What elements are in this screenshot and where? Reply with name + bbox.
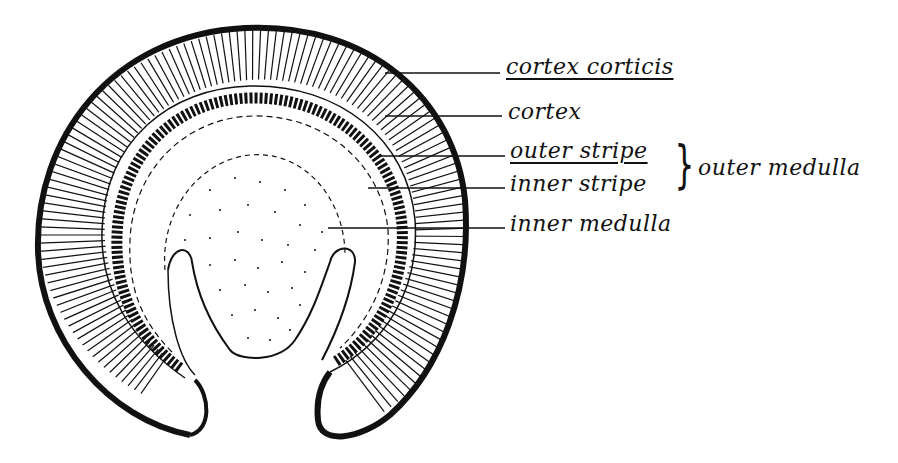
kidney-diagram: cortex corticis cortex outer stripe inne… <box>0 0 898 463</box>
label-inner-medulla: inner medulla <box>510 213 672 235</box>
kidney-drawing <box>0 0 898 463</box>
label-cortex: cortex <box>508 101 581 123</box>
inner-stripe-boundary <box>165 155 345 270</box>
label-outer-medulla: outer medulla <box>698 157 861 179</box>
inner-medulla-stipple <box>184 177 323 341</box>
label-cortex-corticis: cortex corticis <box>506 56 673 78</box>
brace-icon: } <box>675 138 695 190</box>
label-outer-stripe: outer stripe <box>510 140 648 162</box>
outer-stripe-band <box>117 98 403 368</box>
inner-medulla-outline <box>168 249 355 361</box>
label-inner-stripe: inner stripe <box>510 173 647 195</box>
